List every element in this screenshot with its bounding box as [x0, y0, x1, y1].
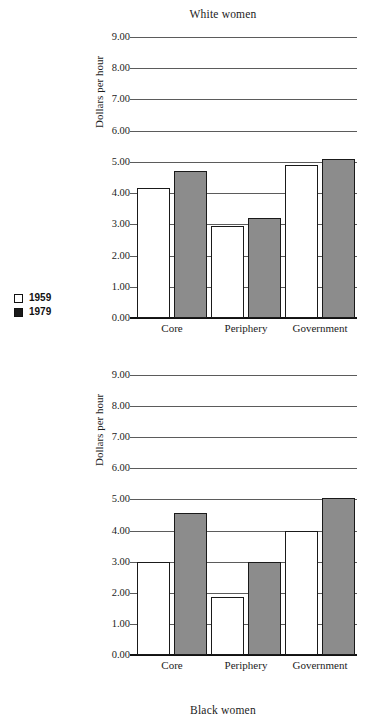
y-axis-tick: [130, 375, 136, 376]
y-axis-tick: [130, 224, 136, 225]
chart-title-black-women: Black women: [0, 704, 370, 716]
y-axis-tick: [130, 531, 136, 532]
y-axis-title-black-women: Dollars per hour: [93, 394, 105, 466]
y-axis-tick-label: 9.00: [112, 370, 130, 381]
y-axis-tick: [130, 499, 136, 500]
x-axis-label-core: Core: [161, 659, 182, 671]
filled-square-icon: [14, 308, 23, 317]
y-axis-tick: [130, 437, 136, 438]
y-axis-tick-label: 8.00: [112, 401, 130, 412]
y-axis-tick-label: 6.00: [112, 125, 130, 136]
y-axis-tick: [130, 317, 136, 319]
y-axis-tick-label: 2.00: [112, 588, 130, 599]
y-axis-tick-label: 7.00: [112, 94, 130, 105]
plot-area-black-women: 0.001.002.003.004.005.006.007.008.009.00: [135, 375, 357, 655]
y-axis-tick: [130, 131, 136, 132]
bar-white-women-government-1979: [322, 159, 355, 318]
y-axis-tick: [130, 593, 136, 594]
y-axis-tick-label: 3.00: [112, 556, 130, 567]
bar-white-women-periphery-1979: [248, 218, 281, 318]
y-axis-tick-label: 1.00: [112, 619, 130, 630]
bar-black-women-core-1959: [137, 562, 170, 655]
y-axis-tick-label: 1.00: [112, 282, 130, 293]
y-axis-tick-label: 0.00: [112, 650, 130, 661]
y-axis-tick: [130, 68, 136, 69]
x-axis-label-core: Core: [161, 322, 182, 334]
legend-label-1979: 1979: [29, 307, 51, 317]
bar-white-women-periphery-1959: [211, 226, 244, 318]
gridline: [135, 68, 357, 69]
open-square-icon: [14, 294, 23, 303]
legend-item-1979: 1979: [14, 305, 51, 319]
y-axis-tick-label: 2.00: [112, 250, 130, 261]
gridline: [135, 37, 357, 38]
y-axis-tick: [130, 562, 136, 563]
y-axis-tick-label: 9.00: [112, 32, 130, 43]
gridline: [135, 375, 357, 376]
y-axis-tick-label: 5.00: [112, 494, 130, 505]
bar-black-women-government-1979: [322, 498, 355, 655]
y-axis-tick-label: 8.00: [112, 63, 130, 74]
y-axis-tick-label: 5.00: [112, 157, 130, 168]
gridline: [135, 437, 357, 438]
y-axis-tick: [130, 193, 136, 194]
bar-white-women-government-1959: [285, 165, 318, 318]
y-axis-tick: [130, 99, 136, 100]
y-axis-tick-label: 4.00: [112, 525, 130, 536]
bar-black-women-core-1979: [174, 513, 207, 655]
legend-label-1959: 1959: [29, 293, 51, 303]
legend-item-1959: 1959: [14, 291, 51, 305]
y-axis-tick-label: 6.00: [112, 463, 130, 474]
plot-area-white-women: 0.001.002.003.004.005.006.007.008.009.00: [135, 37, 357, 318]
y-axis-tick-label: 3.00: [112, 219, 130, 230]
gridline: [135, 468, 357, 469]
gridline: [135, 99, 357, 100]
chart-panel-black-women: Black women 0.001.002.003.004.005.006.00…: [0, 348, 370, 687]
x-axis-label-periphery: Periphery: [225, 322, 268, 334]
y-axis-title-white-women: Dollars per hour: [93, 56, 105, 128]
x-axis-label-government: Government: [293, 659, 348, 671]
y-axis-tick: [130, 37, 136, 38]
legend: 1959 1979: [14, 291, 51, 319]
y-axis-tick-label: 7.00: [112, 432, 130, 443]
y-axis-tick-label: 0.00: [112, 313, 130, 324]
x-axis-label-periphery: Periphery: [225, 659, 268, 671]
bar-black-women-periphery-1959: [211, 597, 244, 655]
y-axis-tick-label: 4.00: [112, 188, 130, 199]
y-axis-tick: [130, 624, 136, 625]
bar-black-women-government-1959: [285, 531, 318, 655]
y-axis-tick: [130, 256, 136, 257]
x-axis-label-government: Government: [293, 322, 348, 334]
chart-title-white-women: White women: [0, 8, 370, 20]
gridline: [135, 406, 357, 407]
y-axis-tick: [130, 287, 136, 288]
y-axis-tick: [130, 468, 136, 469]
bar-white-women-core-1979: [174, 171, 207, 318]
chart-panel-white-women: White women 0.001.002.003.004.005.006.00…: [0, 0, 370, 348]
y-axis-tick: [130, 162, 136, 163]
y-axis-tick: [130, 406, 136, 407]
y-axis-tick: [130, 654, 136, 656]
bar-white-women-core-1959: [137, 188, 170, 318]
bar-black-women-periphery-1979: [248, 562, 281, 655]
gridline: [135, 131, 357, 132]
